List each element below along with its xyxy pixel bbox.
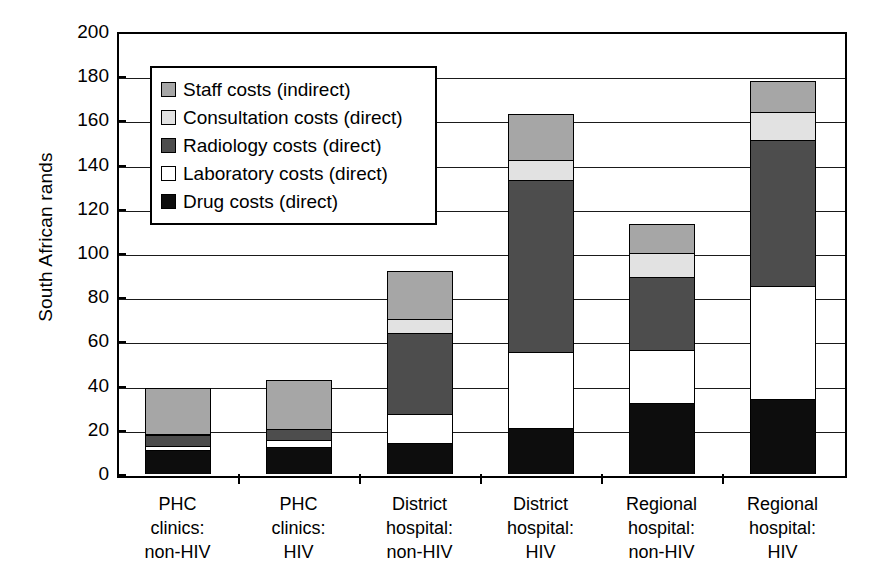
legend-item: Drug costs (direct) [161, 187, 426, 215]
legend-item-label: Consultation costs (direct) [183, 108, 403, 127]
legend-item-label: Laboratory costs (direct) [183, 164, 388, 183]
gridline [119, 255, 845, 256]
x-axis-category-label-line: clinics: [117, 516, 238, 540]
x-axis-category-label-line: non-HIV [601, 540, 722, 564]
x-axis-category-labels: PHCclinics:non-HIVPHCclinics:HIVDistrict… [117, 492, 843, 572]
x-axis-category-label-line: HIV [480, 540, 601, 564]
gridline [119, 388, 845, 389]
legend-item-label: Radiology costs (direct) [183, 136, 382, 155]
legend-swatch-icon [161, 194, 176, 209]
y-axis-tick-label: 60 [49, 331, 109, 350]
legend-item: Staff costs (indirect) [161, 75, 426, 103]
x-axis-category-label-line: HIV [238, 540, 359, 564]
x-axis-category-label: Regionalhospital:HIV [722, 492, 843, 564]
gridline [119, 299, 845, 300]
stacked-bar-chart: South African rands 20018016014012010080… [0, 0, 869, 578]
y-axis-tick-label: 160 [49, 110, 109, 129]
legend-item-label: Drug costs (direct) [183, 192, 338, 211]
y-axis-tick-label: 140 [49, 155, 109, 174]
legend-swatch-icon [161, 166, 176, 181]
x-axis-category-label-line: HIV [722, 540, 843, 564]
legend-item: Consultation costs (direct) [161, 103, 426, 131]
x-axis-category-label-line: PHC [238, 492, 359, 516]
legend-swatch-icon [161, 110, 176, 125]
x-axis-category-label-line: hospital: [359, 516, 480, 540]
legend-swatch-icon [161, 82, 176, 97]
legend-swatch-icon [161, 138, 176, 153]
x-axis-tick-mark [238, 474, 240, 484]
x-axis-category-label: Districthospital:non-HIV [359, 492, 480, 564]
gridline [119, 343, 845, 344]
x-axis-category-label: PHCclinics:non-HIV [117, 492, 238, 564]
y-axis-tick-labels: 200180160140120100806040200 [45, 32, 109, 474]
x-axis-category-label-line: clinics: [238, 516, 359, 540]
y-axis-tick-label: 0 [49, 464, 109, 483]
y-axis-tick-label: 40 [49, 376, 109, 395]
y-axis-tick-label: 100 [49, 243, 109, 262]
y-axis-tick-label: 180 [49, 66, 109, 85]
x-axis-tick-mark [601, 474, 603, 484]
x-axis-category-label-line: PHC [117, 492, 238, 516]
x-axis-category-label-line: hospital: [601, 516, 722, 540]
legend-item-label: Staff costs (indirect) [183, 80, 351, 99]
x-axis-tick-mark [722, 474, 724, 484]
y-axis-tick-label: 20 [49, 420, 109, 439]
legend-item: Laboratory costs (direct) [161, 159, 426, 187]
x-axis-category-label-line: hospital: [722, 516, 843, 540]
x-axis-category-label-line: District [359, 492, 480, 516]
y-axis-tick-label: 80 [49, 287, 109, 306]
x-axis-category-label-line: hospital: [480, 516, 601, 540]
x-axis-category-label-line: Regional [722, 492, 843, 516]
x-axis-category-label: Regionalhospital:non-HIV [601, 492, 722, 564]
x-axis-category-label: Districthospital:HIV [480, 492, 601, 564]
x-axis-category-label: PHCclinics:HIV [238, 492, 359, 564]
x-axis-category-label-line: non-HIV [117, 540, 238, 564]
x-axis-category-label-line: District [480, 492, 601, 516]
x-axis-tick-mark [480, 474, 482, 484]
x-axis-tick-mark [359, 474, 361, 484]
y-axis-tick-label: 200 [49, 22, 109, 41]
y-axis-tick-label: 120 [49, 199, 109, 218]
x-axis-category-label-line: non-HIV [359, 540, 480, 564]
legend-item: Radiology costs (direct) [161, 131, 426, 159]
x-axis-category-label-line: Regional [601, 492, 722, 516]
chart-legend: Staff costs (indirect)Consultation costs… [150, 66, 437, 225]
gridline [119, 432, 845, 433]
